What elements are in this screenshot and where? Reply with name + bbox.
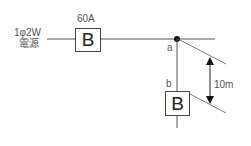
main-breaker: B bbox=[75, 28, 101, 52]
dimension-label: 10m bbox=[214, 80, 233, 90]
source-label: 電源 bbox=[19, 39, 39, 49]
point-b-label: b bbox=[166, 79, 172, 89]
dimension-extension-top bbox=[178, 39, 226, 64]
main-breaker-rating: 60A bbox=[77, 14, 95, 24]
arrow-up-icon bbox=[206, 57, 214, 65]
point-a-label: a bbox=[167, 43, 173, 53]
wiring-diagram bbox=[0, 0, 251, 146]
branch-breaker: B bbox=[165, 91, 190, 116]
source-phase-label: 1φ2W bbox=[14, 28, 41, 38]
